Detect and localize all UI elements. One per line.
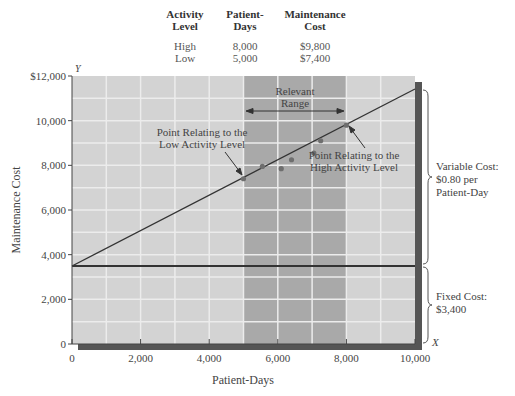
data-point bbox=[289, 157, 294, 162]
y-axis-label: Maintenance Cost bbox=[9, 166, 23, 254]
data-point bbox=[318, 138, 323, 143]
plot-shadow-right bbox=[415, 82, 422, 350]
relevant-range-label-2: Range bbox=[281, 97, 309, 109]
x-tick-label: 10,000 bbox=[400, 352, 431, 364]
y-tick-label: 8,000 bbox=[41, 159, 66, 171]
y-tick-labels: 02,0004,0006,0008,00010,000$12,000 bbox=[30, 70, 72, 350]
data-point bbox=[344, 123, 349, 128]
fixed-cost-label-1: Fixed Cost: bbox=[436, 290, 487, 302]
x-axis-letter: X bbox=[431, 336, 440, 348]
x-tick-label: 4,000 bbox=[197, 352, 222, 364]
y-tick-label: 10,000 bbox=[36, 115, 67, 127]
low-point-label-1: Point Relating to the bbox=[157, 126, 248, 138]
x-axis-label: Patient-Days bbox=[212, 373, 274, 387]
cost-chart: 02,0004,0006,0008,00010,000$12,000 02,00… bbox=[0, 0, 515, 396]
data-point bbox=[279, 166, 284, 171]
variable-cost-label-1: Variable Cost: bbox=[436, 160, 499, 172]
data-point bbox=[260, 164, 265, 169]
x-tick-label: 2,000 bbox=[128, 352, 153, 364]
y-tick-label: 4,000 bbox=[41, 249, 66, 261]
relevant-range-label-1: Relevant bbox=[275, 85, 314, 97]
y-tick-label: $12,000 bbox=[30, 70, 66, 82]
fixed-cost-brace bbox=[423, 267, 432, 343]
x-tick-label: 0 bbox=[69, 352, 75, 364]
y-axis-letter: Y bbox=[75, 63, 82, 74]
y-tick-label: 6,000 bbox=[41, 204, 66, 216]
variable-cost-label-3: Patient-Day bbox=[436, 186, 489, 198]
variable-cost-label-2: $0.80 per bbox=[436, 173, 478, 185]
y-tick-label: 0 bbox=[61, 338, 67, 350]
low-point-label-2: Low Activity Level bbox=[159, 138, 245, 150]
x-tick-label: 6,000 bbox=[265, 352, 290, 364]
plot-shadow-bottom bbox=[78, 344, 422, 350]
y-tick-label: 2,000 bbox=[41, 293, 66, 305]
high-point-label-2: High Activity Level bbox=[310, 161, 398, 173]
variable-cost-brace bbox=[423, 90, 432, 264]
fixed-cost-label-2: $3,400 bbox=[436, 303, 467, 315]
data-point bbox=[241, 176, 246, 181]
high-point-label-1: Point Relating to the bbox=[309, 149, 400, 161]
x-tick-label: 8,000 bbox=[334, 352, 359, 364]
